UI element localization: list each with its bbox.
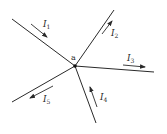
current-arrow-icon-4 <box>90 87 97 107</box>
current-label-2: I2 <box>110 28 119 39</box>
branch-wire-2 <box>75 10 114 66</box>
current-label-4: I4 <box>99 92 108 103</box>
current-node-diagram: I1I2I3I4I5 a <box>0 0 167 134</box>
current-labels: I1I2I3I4I5 <box>42 19 135 105</box>
current-label-1: I1 <box>42 19 50 30</box>
branch-wires <box>12 10 154 123</box>
current-arrow-icon-3 <box>123 65 145 67</box>
current-arrows <box>30 21 145 107</box>
node-a-dot <box>73 64 77 68</box>
current-arrow-icon-5 <box>30 86 53 98</box>
current-label-3: I3 <box>126 53 135 64</box>
current-label-5: I5 <box>42 94 51 105</box>
node-a-label: a <box>71 53 76 62</box>
